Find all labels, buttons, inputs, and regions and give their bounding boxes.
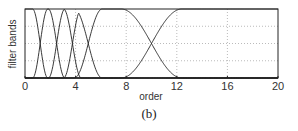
filter-bands-chart: 048121620 order filter bands xyxy=(0,0,298,106)
filter-band-curve xyxy=(25,13,278,78)
y-axis-label: filter bands xyxy=(7,20,18,69)
x-tick-label: 0 xyxy=(22,80,28,92)
x-tick-label: 20 xyxy=(272,80,284,92)
filter-band-curve xyxy=(25,9,278,78)
x-tick-label: 16 xyxy=(221,80,233,92)
x-tick-label: 8 xyxy=(123,80,129,92)
figure-caption: (b) xyxy=(0,106,298,122)
x-tick-label: 12 xyxy=(171,80,183,92)
x-axis-label: order xyxy=(139,91,163,102)
x-tick-label: 4 xyxy=(73,80,79,92)
filter-band-curves xyxy=(25,9,278,78)
